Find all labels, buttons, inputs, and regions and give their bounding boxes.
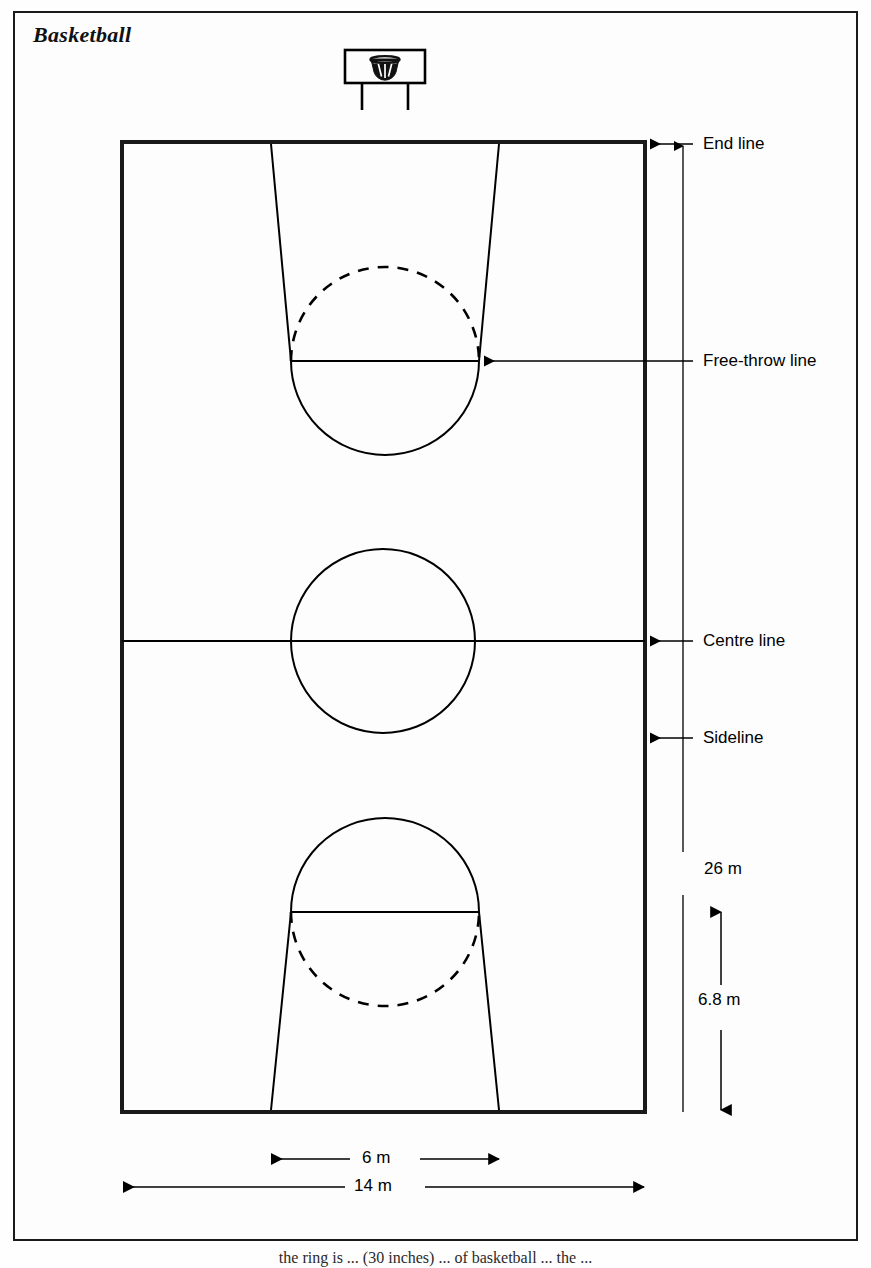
- label-centre-line: Centre line: [703, 631, 785, 651]
- dimension-label-key-depth: 6.8 m: [694, 990, 745, 1010]
- dimension-label-court-width: 14 m: [350, 1176, 396, 1196]
- dimension-label-court-length: 26 m: [700, 859, 746, 879]
- figure-caption: the ring is ... (30 inches) ... of baske…: [0, 1249, 871, 1268]
- page-title: Basketball: [33, 22, 131, 48]
- label-sideline: Sideline: [703, 728, 764, 748]
- figure-frame: [13, 11, 858, 1241]
- label-free-throw-line: Free-throw line: [703, 351, 816, 371]
- label-end-line: End line: [703, 134, 764, 154]
- page-root: Basketball: [0, 0, 871, 1268]
- dimension-label-key-width: 6 m: [358, 1148, 394, 1168]
